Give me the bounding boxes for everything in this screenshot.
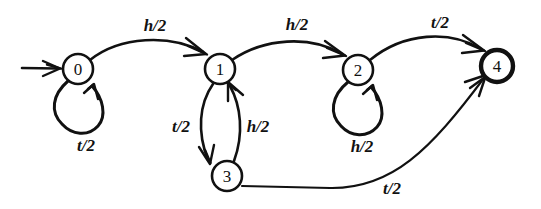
start-arrow	[22, 61, 61, 76]
node-0[interactable]: 0	[63, 54, 93, 84]
state-machine-diagram: 0 1 2 3 4 h/2 h/2 t/2 t/2 h/2 t/2 h/2 t/…	[0, 0, 541, 209]
edge-label-1-to-2: h/2	[286, 15, 309, 34]
node-2[interactable]: 2	[343, 55, 373, 85]
edge-1-to-2	[232, 41, 346, 60]
edge-label-self-loop-2: h/2	[351, 137, 374, 156]
node-1[interactable]: 1	[205, 54, 235, 84]
node-4[interactable]: 4	[481, 50, 513, 82]
node-3[interactable]: 3	[212, 161, 242, 191]
edge-3-to-1	[228, 82, 244, 161]
edge-2-to-4	[370, 35, 485, 60]
edge-label-2-to-4: t/2	[431, 13, 449, 32]
edge-label-self-loop-0: t/2	[77, 136, 95, 155]
edge-label-3-to-1: h/2	[247, 117, 270, 136]
node-0-label: 0	[74, 60, 83, 79]
diagram-canvas: 0 1 2 3 4 h/2 h/2 t/2 t/2 h/2 t/2 h/2 t/…	[0, 0, 541, 209]
edge-label-3-to-4: t/2	[383, 179, 401, 198]
edge-1-to-3	[199, 84, 214, 164]
self-loop-node-2	[333, 82, 382, 135]
edge-0-to-1	[90, 38, 207, 60]
edge-label-1-to-3: t/2	[172, 117, 190, 136]
self-loop-node-0	[54, 81, 103, 133]
node-4-label: 4	[493, 57, 502, 76]
node-3-label: 3	[223, 167, 232, 186]
node-1-label: 1	[216, 60, 225, 79]
node-2-label: 2	[354, 61, 363, 80]
edge-label-0-to-1: h/2	[144, 16, 167, 35]
